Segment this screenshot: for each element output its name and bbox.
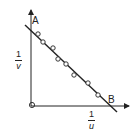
x-axis-label: 1 u [88, 110, 95, 130]
y-axis-label-den: v [15, 61, 22, 71]
data-point [64, 62, 68, 66]
x-axis-label-num: 1 [88, 110, 95, 121]
data-point [96, 93, 100, 97]
y-axis-label: 1 v [15, 50, 22, 71]
fit-line [25, 25, 117, 112]
x-axis-label-den: u [88, 121, 95, 130]
label-a: A [32, 16, 39, 26]
label-b: B [108, 95, 115, 105]
origin-marker [29, 102, 34, 107]
y-axis-label-num: 1 [15, 50, 22, 61]
data-point [41, 40, 45, 44]
data-point [86, 81, 90, 85]
data-point [36, 32, 40, 36]
data-point [51, 46, 55, 50]
data-point [72, 73, 76, 77]
data-point [56, 57, 60, 61]
